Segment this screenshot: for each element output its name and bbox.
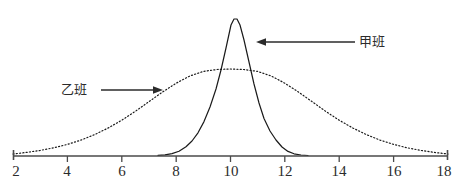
annotation-arrow-series-b — [101, 86, 163, 94]
x-tick-label: 12 — [278, 164, 293, 179]
x-tick-label: 18 — [437, 164, 452, 179]
x-tick-label: 14 — [332, 164, 347, 179]
x-tick-label: 4 — [63, 164, 71, 179]
series-label-a: 甲班 — [359, 35, 385, 48]
x-axis-ticks — [67, 156, 393, 162]
curve-series-a — [158, 19, 308, 156]
x-tick-label: 8 — [172, 164, 180, 179]
chart-figure: 2 4 6 8 10 12 14 16 18 甲班 乙班 — [0, 0, 461, 185]
x-tick-label: 6 — [118, 164, 126, 179]
annotation-arrow-series-a — [256, 38, 355, 46]
x-tick-label: 2 — [12, 164, 20, 179]
series-label-b: 乙班 — [61, 83, 87, 96]
x-tick-label: 16 — [387, 164, 402, 179]
x-tick-label: 10 — [224, 164, 239, 179]
